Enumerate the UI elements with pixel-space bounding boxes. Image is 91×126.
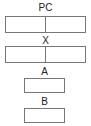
pc-cell-right (46, 17, 85, 32)
pc-register-box (5, 16, 86, 33)
b-register-box (24, 108, 65, 123)
pc-label: PC (5, 3, 86, 13)
b-label: B (24, 97, 65, 107)
pc-cell-left (6, 17, 46, 32)
x-register-box (5, 46, 86, 63)
x-cell-left (6, 47, 46, 62)
a-label: A (24, 67, 65, 77)
x-cell-right (46, 47, 85, 62)
a-register-box (24, 78, 65, 93)
x-label: X (5, 36, 86, 46)
